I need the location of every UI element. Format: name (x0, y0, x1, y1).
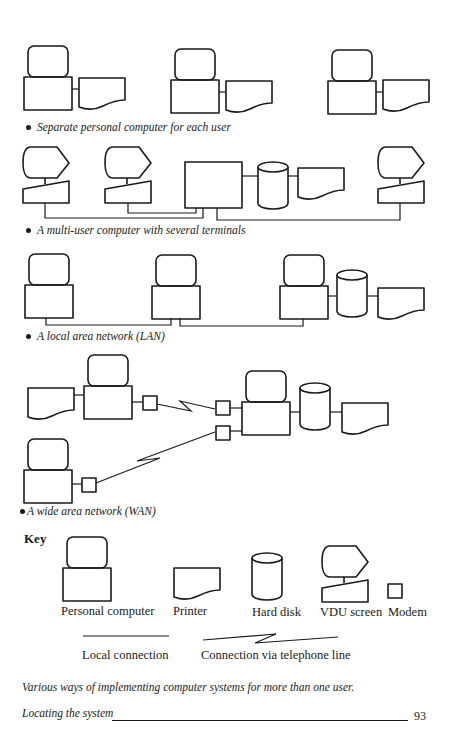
key-title: Key (24, 531, 46, 547)
personal-computer-icon (24, 46, 72, 110)
computer-systems-diagram (0, 0, 449, 731)
personal-computer-icon (24, 439, 72, 503)
figure-caption: Various ways of implementing computer sy… (22, 681, 354, 693)
bullet-icon (20, 509, 25, 514)
footer-rule (112, 720, 408, 721)
modem-icon (216, 401, 230, 415)
lan-group (25, 254, 424, 326)
running-title: Locating the system (22, 707, 113, 719)
caption-separate: Separate personal computer for each user (26, 121, 231, 133)
key-label-hard-disk: Hard disk (252, 605, 301, 620)
personal-computer-icon (280, 255, 328, 319)
hard-disk-icon (258, 162, 288, 209)
key-modem-icon (388, 584, 402, 598)
bullet-icon (26, 125, 31, 130)
key-symbols (63, 537, 402, 643)
bullet-icon (26, 334, 31, 339)
personal-computer-icon (84, 355, 132, 419)
personal-computer-icon (152, 255, 200, 319)
key-telephone-connection-line (203, 634, 338, 643)
personal-computer-icon (328, 50, 376, 114)
telephone-connection (157, 401, 215, 411)
key-hard-disk-icon (252, 553, 282, 600)
key-personal-computer-icon (63, 537, 111, 601)
key-label-modem: Modem (388, 605, 427, 620)
telephone-connection (96, 432, 215, 483)
vdu-screen-icon (105, 147, 151, 203)
key-printer-icon (174, 568, 220, 599)
modem-icon (82, 478, 96, 492)
printer-icon (79, 78, 125, 109)
vdu-screen-icon (23, 147, 69, 203)
personal-computer-icon (242, 371, 290, 435)
multi-user-computer-icon (185, 162, 242, 208)
key-label-personal-computer: Personal computer (61, 604, 154, 619)
key-label-vdu-screen: VDU screen (320, 605, 382, 620)
vdu-screen-icon (378, 147, 424, 203)
printer-icon (28, 388, 74, 419)
local-connection (45, 203, 203, 218)
hard-disk-icon (300, 383, 330, 430)
modem-icon (143, 396, 157, 410)
page-number: 93 (414, 709, 426, 724)
caption-lan: A local area network (LAN) (26, 330, 165, 342)
key-label-telephone-connection: Connection via telephone line (201, 648, 351, 663)
local-connection (217, 203, 400, 220)
printer-icon (342, 403, 388, 434)
separate-pcs-group (24, 46, 429, 114)
personal-computer-icon (25, 254, 73, 318)
printer-icon (378, 288, 424, 319)
printer-icon (298, 168, 344, 199)
multi-user-group (23, 147, 424, 220)
printer-icon (383, 80, 429, 111)
caption-multiuser: A multi-user computer with several termi… (26, 224, 245, 236)
personal-computer-icon (171, 49, 219, 113)
key-vdu-screen-icon (322, 546, 368, 602)
hard-disk-icon (337, 270, 367, 317)
printer-icon (226, 81, 272, 112)
caption-wan: A wide area network (WAN) (20, 505, 156, 517)
modem-icon (216, 426, 230, 440)
key-label-local-connection: Local connection (82, 648, 168, 663)
bullet-icon (26, 228, 31, 233)
wan-group (24, 355, 388, 503)
key-label-printer: Printer (173, 604, 207, 619)
